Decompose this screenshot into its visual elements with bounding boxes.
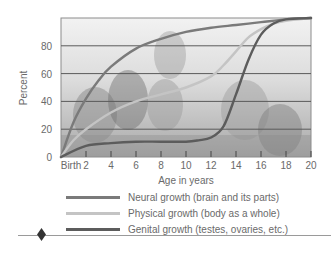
x-tick-label: 20 — [305, 160, 317, 171]
x-tick-label: 12 — [205, 160, 217, 171]
legend-label-genital: Genital growth (testes, ovaries, etc.) — [128, 224, 288, 235]
x-tick-label: Birth — [61, 160, 82, 171]
legend-swatch-physical — [66, 212, 120, 215]
y-tick-label: 60 — [41, 69, 53, 80]
legend-item-physical: Physical growth (body as a whole) — [66, 205, 288, 221]
legend-item-neural: Neural growth (brain and its parts) — [66, 189, 288, 205]
legend-label-neural: Neural growth (brain and its parts) — [128, 192, 279, 203]
legend-swatch-neural — [66, 196, 120, 199]
diamond-ornament-icon — [37, 228, 46, 241]
y-tick-label: 80 — [41, 41, 53, 52]
chart-legend: Neural growth (brain and its parts) Phys… — [66, 189, 288, 237]
y-tick-label: 20 — [41, 124, 53, 135]
x-tick-label: 2 — [83, 160, 89, 171]
x-tick-label: 4 — [108, 160, 114, 171]
x-axis-title: Age in years — [158, 175, 214, 186]
legend-swatch-genital — [66, 228, 120, 231]
x-tick-label: 14 — [230, 160, 242, 171]
legend-label-physical: Physical growth (body as a whole) — [128, 208, 280, 219]
y-axis-labels: 020406080 — [41, 41, 53, 163]
x-tick-label: 8 — [158, 160, 164, 171]
x-tick-label: 6 — [133, 160, 139, 171]
growth-chart: 020406080 Birth2468101214161820 Percent … — [0, 0, 331, 186]
x-tick-label: 18 — [280, 160, 292, 171]
page-divider-rule — [18, 235, 331, 236]
x-axis-labels: Birth2468101214161820 — [61, 160, 317, 171]
y-axis-title: Percent — [18, 71, 29, 106]
y-tick-label: 40 — [41, 96, 53, 107]
x-tick-label: 10 — [180, 160, 192, 171]
x-tick-label: 16 — [255, 160, 267, 171]
y-tick-label: 0 — [46, 152, 52, 163]
